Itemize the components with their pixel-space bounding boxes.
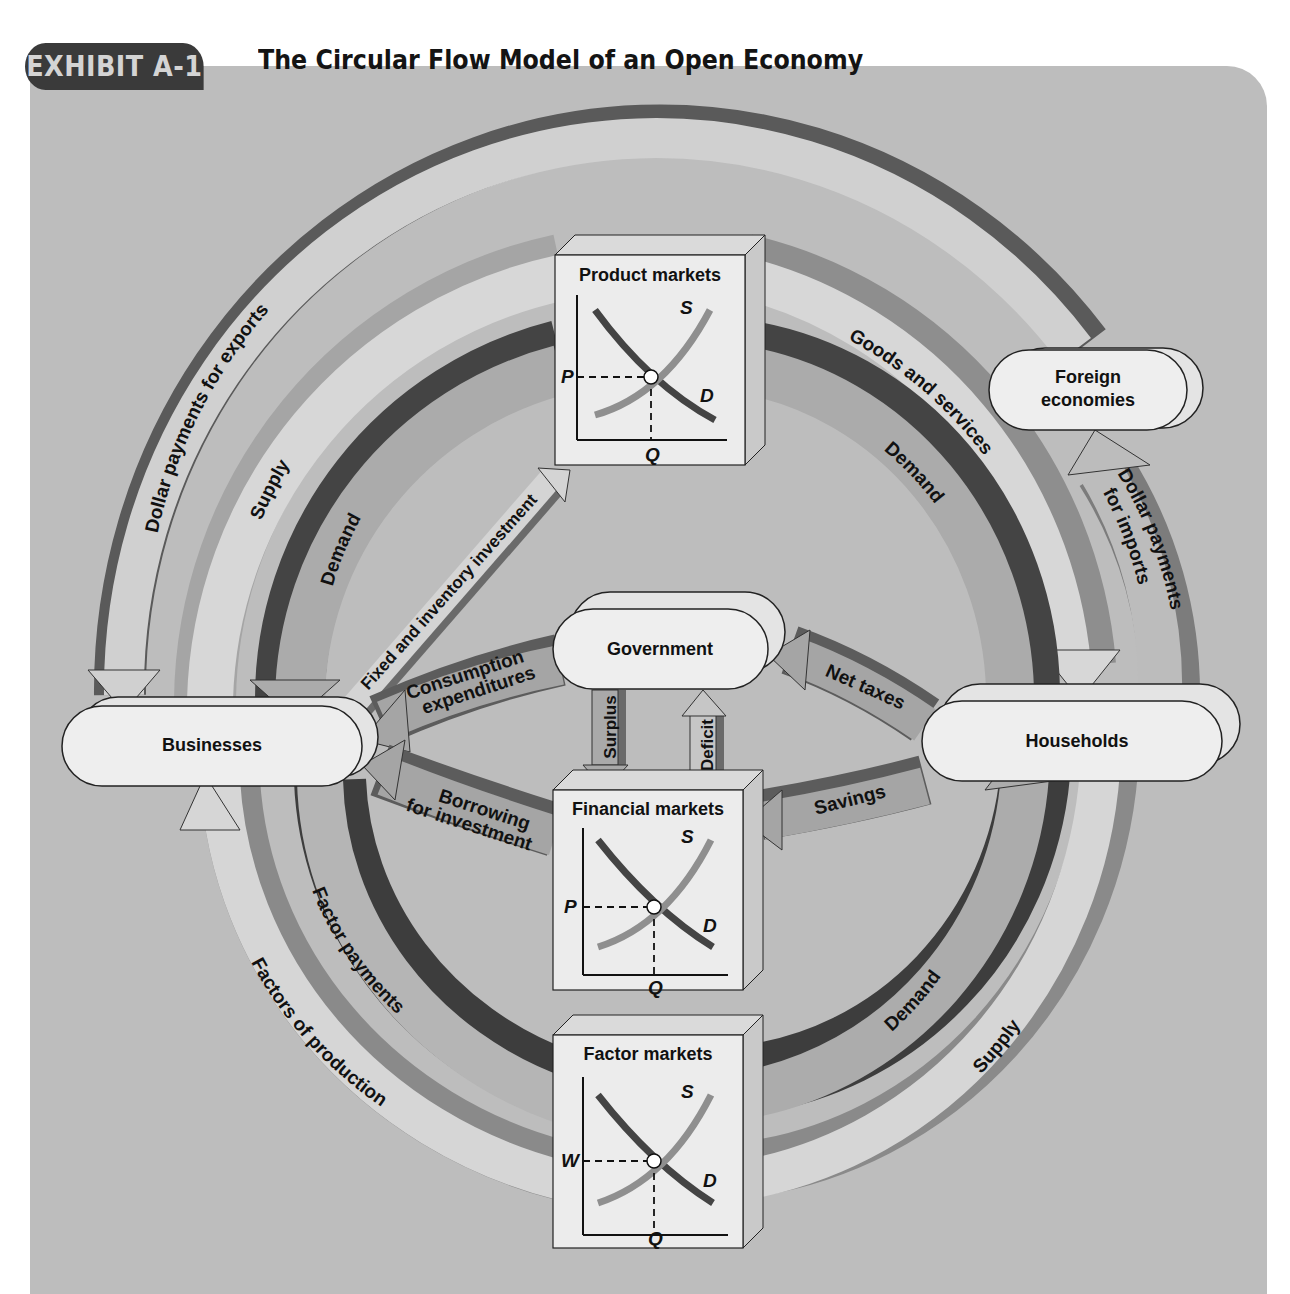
foreign-label-2: economies: [1041, 390, 1135, 410]
flow-savings: [745, 780, 925, 850]
label-surplus: Surplus: [601, 695, 620, 758]
product-price-label: P: [561, 366, 574, 387]
financial-supply-label: S: [681, 826, 694, 847]
circular-flow-diagram: Businesses Households Government Foreign…: [0, 0, 1290, 1294]
product-markets-box[interactable]: Product markets P Q S D: [555, 235, 765, 465]
factor-markets-title: Factor markets: [583, 1044, 712, 1064]
households-label: Households: [1025, 731, 1128, 751]
government-label: Government: [607, 639, 713, 659]
businesses-label: Businesses: [162, 735, 262, 755]
svg-text:Deficit: Deficit: [698, 719, 717, 771]
factor-markets-box[interactable]: Factor markets W Q S D: [553, 1015, 763, 1249]
node-businesses[interactable]: Businesses: [62, 697, 378, 786]
svg-text:Surplus: Surplus: [601, 695, 620, 758]
factor-supply-label: S: [681, 1081, 694, 1102]
product-qty-label: Q: [645, 444, 660, 465]
product-markets-title: Product markets: [579, 265, 721, 285]
foreign-label-1: Foreign: [1055, 367, 1121, 387]
node-households[interactable]: Households: [922, 684, 1240, 781]
factor-demand-label: D: [703, 1170, 717, 1191]
financial-qty-label: Q: [648, 977, 663, 998]
node-foreign-economies[interactable]: Foreign economies: [989, 348, 1203, 430]
financial-demand-label: D: [703, 915, 717, 936]
label-deficit: Deficit: [698, 719, 717, 771]
financial-price-label: P: [564, 896, 577, 917]
node-government[interactable]: Government: [553, 592, 785, 689]
product-supply-label: S: [680, 297, 693, 318]
product-demand-label: D: [700, 385, 714, 406]
factor-qty-label: Q: [648, 1228, 663, 1249]
factor-wage-label: W: [561, 1150, 581, 1171]
financial-markets-box[interactable]: Financial markets P Q S D: [553, 770, 763, 998]
financial-markets-title: Financial markets: [572, 799, 724, 819]
